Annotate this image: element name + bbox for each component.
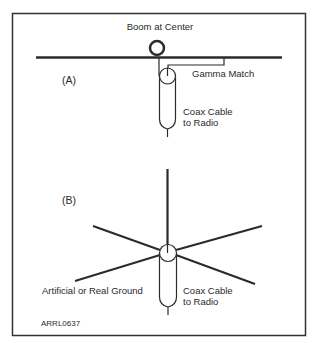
- coax-cable-icon: [160, 245, 177, 316]
- radial-upper-right: [176, 226, 262, 250]
- gamma-match-label: Gamma Match: [192, 68, 254, 79]
- antenna-diagram: Boom at Center (A) Gamma Match Coax Cabl…: [0, 0, 313, 343]
- panel-b: (B) Artificial or Real Ground Coax Cable…: [42, 169, 262, 315]
- figure-id: ARRL0637: [41, 319, 81, 328]
- coax-label-b-1: Coax Cable: [183, 285, 233, 296]
- boom-label: Boom at Center: [127, 21, 194, 32]
- coax-label-b-2: to Radio: [183, 296, 218, 307]
- panel-b-label: (B): [62, 194, 76, 206]
- panel-a: Boom at Center (A) Gamma Match Coax Cabl…: [36, 21, 282, 137]
- radial-lower-left: [75, 255, 160, 281]
- coax-label-a-1: Coax Cable: [183, 106, 233, 117]
- coax-cable-icon: [160, 68, 176, 137]
- boom-icon: [150, 41, 164, 55]
- radial-upper-left: [93, 226, 160, 250]
- coax-label-a-2: to Radio: [183, 117, 218, 128]
- radial-lower-right: [176, 255, 255, 284]
- panel-a-label: (A): [62, 74, 76, 86]
- ground-label: Artificial or Real Ground: [42, 285, 143, 296]
